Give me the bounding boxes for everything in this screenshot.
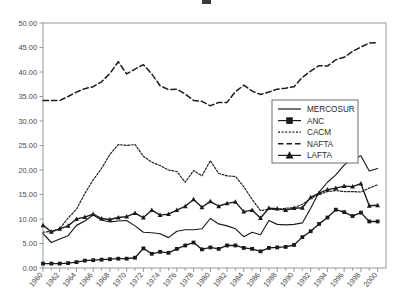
data-point-marker	[108, 257, 112, 261]
series-lafta	[41, 181, 380, 234]
x-tick-label: 1984	[228, 271, 245, 289]
data-point-marker	[125, 257, 129, 261]
data-point-marker	[191, 197, 196, 202]
data-point-marker	[116, 257, 120, 261]
x-tick-label: 1962	[44, 271, 61, 289]
y-tick-label: 45.00	[19, 43, 38, 52]
data-point-marker	[149, 208, 154, 213]
line-chart: 0.005.0010.0015.0020.0025.0030.0035.0040…	[0, 0, 410, 308]
x-tick-label: 1972	[127, 271, 144, 289]
y-tick-label: 25.00	[19, 141, 38, 150]
data-point-marker	[167, 251, 171, 255]
legend-label: ANC	[307, 117, 324, 126]
y-tick-label: 40.00	[19, 68, 38, 77]
legend-label: MERCOSUR	[307, 105, 355, 114]
x-tick-label: 1970	[111, 271, 128, 289]
y-tick-label: 15.00	[19, 190, 38, 199]
x-tick-label: 1996	[328, 271, 345, 289]
data-point-marker	[359, 211, 363, 215]
y-tick-label: 35.00	[19, 92, 38, 101]
data-point-marker	[242, 246, 246, 250]
data-point-marker	[66, 261, 70, 265]
x-tick-label: 1964	[61, 271, 78, 289]
data-point-marker	[326, 216, 330, 220]
series-line-nafta	[43, 43, 378, 106]
data-point-marker	[234, 244, 238, 248]
data-point-marker	[259, 249, 263, 253]
data-point-marker	[351, 214, 355, 218]
x-tick-label: 1998	[345, 271, 362, 289]
x-tick-label: 1988	[261, 271, 278, 289]
data-point-marker	[250, 247, 254, 251]
y-tick-label: 20.00	[19, 166, 38, 175]
data-point-marker	[275, 246, 279, 250]
data-point-marker	[150, 252, 154, 256]
data-point-marker	[91, 212, 96, 217]
legend-label: LAFTA	[307, 151, 332, 160]
data-point-marker	[83, 259, 87, 263]
data-point-marker	[342, 210, 346, 214]
legend-label: NAFTA	[307, 140, 334, 149]
x-axis-tick-labels: 1960196219641966196819701972197419761978…	[27, 271, 379, 289]
x-tick-label: 1974	[144, 271, 161, 289]
y-axis-tick-labels: 0.005.0010.0015.0020.0025.0030.0035.0040…	[19, 19, 38, 273]
data-point-marker	[91, 258, 95, 262]
legend-swatch-square-marker	[286, 117, 293, 124]
data-point-marker	[317, 222, 321, 226]
data-point-marker	[183, 244, 187, 248]
data-point-marker	[309, 229, 313, 233]
x-tick-label: 1986	[245, 271, 262, 289]
data-point-marker	[158, 250, 162, 254]
data-point-marker	[175, 247, 179, 251]
data-point-marker	[334, 208, 338, 212]
data-point-marker	[359, 181, 364, 186]
data-point-marker	[225, 244, 229, 248]
data-point-marker	[376, 220, 380, 224]
data-point-marker	[292, 243, 296, 247]
data-point-marker	[367, 220, 371, 224]
data-point-marker	[208, 246, 212, 250]
x-tick-label: 1976	[161, 271, 178, 289]
x-tick-label: 1982	[211, 271, 228, 289]
data-point-marker	[141, 247, 145, 251]
x-tick-label: 1968	[94, 271, 111, 289]
data-point-marker	[208, 199, 213, 204]
y-tick-label: 30.00	[19, 117, 38, 126]
data-point-marker	[133, 256, 137, 260]
y-tick-label: 10.00	[19, 215, 38, 224]
x-tick-label: 1978	[178, 271, 195, 289]
data-point-marker	[217, 247, 221, 251]
legend-label: CACM	[307, 128, 331, 137]
y-tick-label: 50.00	[19, 19, 38, 28]
chart-container: 0.005.0010.0015.0020.0025.0030.0035.0040…	[0, 0, 410, 308]
data-point-marker	[41, 223, 46, 228]
x-tick-label: 1990	[278, 271, 295, 289]
x-tick-label: 1994	[312, 271, 329, 289]
data-point-marker	[200, 247, 204, 251]
cropped-title-mark	[202, 0, 211, 4]
data-point-marker	[58, 262, 62, 266]
data-point-marker	[300, 235, 304, 239]
data-point-marker	[192, 241, 196, 245]
data-point-marker	[267, 246, 271, 250]
x-tick-label: 1992	[295, 271, 312, 289]
data-point-marker	[100, 258, 104, 262]
chart-legend[interactable]: MERCOSURANCCACMNAFTALAFTA	[272, 100, 358, 163]
data-point-marker	[133, 211, 138, 216]
x-tick-label: 1980	[194, 271, 211, 289]
data-point-marker	[49, 262, 53, 266]
y-tick-label: 0.00	[23, 264, 37, 273]
x-tick-label: 1966	[77, 271, 94, 289]
data-point-marker	[75, 260, 79, 264]
series-nafta	[43, 43, 378, 106]
data-point-marker	[41, 262, 45, 266]
y-tick-label: 5.00	[23, 239, 37, 248]
x-tick-label: 2000	[362, 271, 379, 289]
x-tick-label: 1960	[27, 271, 44, 289]
data-point-marker	[284, 245, 288, 249]
